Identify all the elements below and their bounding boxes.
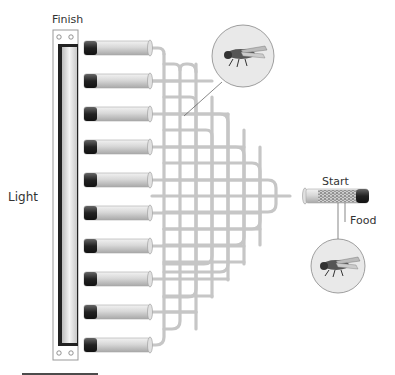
food-plug bbox=[356, 189, 369, 203]
end-tube bbox=[84, 205, 153, 221]
end-tube bbox=[84, 40, 153, 56]
end-tube bbox=[84, 106, 153, 122]
end-tube bbox=[84, 238, 153, 254]
end-tube bbox=[84, 271, 153, 287]
end-tube bbox=[84, 73, 153, 89]
end-tube bbox=[84, 139, 153, 155]
light-source bbox=[53, 30, 78, 360]
maze-diagram bbox=[0, 0, 395, 375]
fly-callout-bottom bbox=[311, 203, 365, 293]
flies-cluster bbox=[318, 190, 360, 202]
end-tubes bbox=[84, 40, 153, 353]
maze-channels bbox=[152, 48, 290, 345]
start-tube bbox=[303, 188, 370, 222]
end-tube bbox=[84, 337, 153, 353]
end-tube bbox=[84, 172, 153, 188]
end-tube bbox=[84, 304, 153, 320]
